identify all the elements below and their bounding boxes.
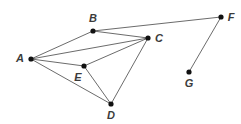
graph-vertex-f xyxy=(218,14,223,19)
graph-canvas xyxy=(0,0,241,124)
graph-edge-c-e xyxy=(84,38,148,66)
vertex-label-f: F xyxy=(228,12,235,23)
graph-vertex-g xyxy=(186,69,191,74)
graph-edge-a-e xyxy=(31,59,84,66)
graph-edge-a-c xyxy=(31,38,148,59)
graph-vertex-c xyxy=(145,35,150,40)
vertex-label-b: B xyxy=(89,13,97,24)
graph-edge-a-b xyxy=(31,31,93,59)
graph-edge-f-g xyxy=(189,17,221,72)
edges-group xyxy=(31,17,221,104)
vertex-label-g: G xyxy=(185,78,194,89)
graph-vertex-b xyxy=(90,28,95,33)
graph-vertex-e xyxy=(81,63,86,68)
graph-edge-b-c xyxy=(93,31,148,38)
graph-edge-c-d xyxy=(111,38,148,104)
vertex-label-e: E xyxy=(74,72,81,83)
vertex-label-c: C xyxy=(155,33,163,44)
graph-diagram: ABCDEFG xyxy=(0,0,241,124)
graph-edge-b-f xyxy=(93,17,221,31)
graph-vertex-d xyxy=(108,101,113,106)
graph-edge-a-d xyxy=(31,59,111,104)
graph-edge-e-d xyxy=(84,66,111,104)
vertex-label-d: D xyxy=(107,110,115,121)
vertices-group xyxy=(28,14,223,106)
graph-vertex-a xyxy=(28,56,33,61)
vertex-label-a: A xyxy=(16,53,24,64)
